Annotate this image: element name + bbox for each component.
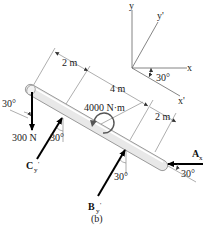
reaction-a: A x 30° (168, 148, 203, 182)
reaction-b-symbol: B (88, 201, 95, 212)
reaction-c-angle-label: 30° (50, 132, 64, 143)
angle-ref-line (10, 110, 28, 118)
reaction-c-prime: ' (38, 160, 39, 168)
reaction-b-angle-label: 30° (114, 171, 128, 182)
extension-line (66, 66, 90, 104)
extension-line (33, 48, 55, 86)
x-prime-axis-label: x' (178, 95, 185, 106)
dimension-label-4m: 4 m (110, 83, 126, 94)
free-body-diagram: y x y' x' 30° 2 m 4 m 2 m 4000 N·m (0, 0, 206, 227)
reaction-c-symbol: C (26, 160, 33, 171)
dimension-label-2m-right: 2 m (155, 111, 171, 122)
coordinate-axes: y x y' x' 30° (129, 0, 192, 106)
x-axis-label: x (187, 62, 192, 73)
moment-label: 4000 N·m (84, 102, 125, 113)
dimension-label-2m-left: 2 m (62, 57, 78, 68)
reaction-b-prime: ' (100, 201, 101, 209)
force-angle-arc (24, 112, 31, 116)
reaction-b-angle-arc (120, 160, 126, 163)
reaction-a-angle-label: 30° (181, 168, 195, 179)
rod (25, 84, 168, 171)
axes-angle-label: 30° (156, 72, 170, 83)
figure-label: (b) (91, 213, 103, 225)
applied-force: 30° 300 N (2, 92, 37, 143)
force-300n-angle-label: 30° (2, 98, 16, 109)
reaction-c-angle-arc (57, 128, 63, 131)
y-axis-label: y (129, 0, 134, 11)
y-prime-axis (132, 22, 158, 68)
extension-line (130, 100, 153, 140)
angle-arc (149, 68, 151, 77)
reaction-b: 30° B y ' (88, 150, 128, 215)
reaction-a-subscript: x (199, 154, 203, 162)
force-300n-label: 300 N (12, 132, 37, 143)
y-prime-axis-label: y' (157, 10, 164, 21)
